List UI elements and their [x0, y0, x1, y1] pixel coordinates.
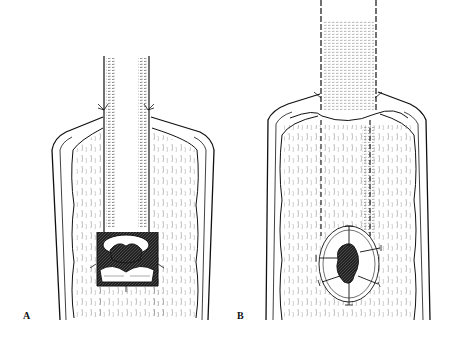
panel-label-a: A	[23, 310, 30, 321]
panel-a	[52, 56, 214, 320]
panel-label-b: B	[237, 310, 244, 321]
medical-illustration: A B	[0, 0, 454, 339]
illustration-drawing	[0, 0, 454, 339]
panel-b	[266, 0, 430, 320]
